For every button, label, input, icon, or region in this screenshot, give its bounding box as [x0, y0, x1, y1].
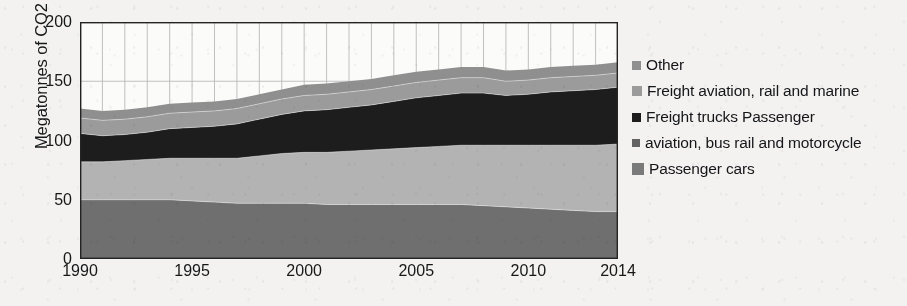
legend-swatch-icon	[632, 61, 641, 70]
x-tick-1990: 1990	[45, 262, 115, 280]
x-tick-2014: 2014	[583, 262, 653, 280]
legend-item[interactable]: Passenger cars	[632, 156, 904, 182]
legend-item[interactable]: Freight trucks Passenger	[632, 104, 904, 130]
legend-swatch-icon	[632, 163, 644, 175]
legend-item[interactable]: Other	[632, 52, 904, 78]
legend-label: Freight aviation, rail and marine	[647, 82, 859, 100]
x-tick-1995: 1995	[157, 262, 227, 280]
legend-label: Freight trucks Passenger	[646, 108, 815, 126]
legend-swatch-icon	[632, 113, 641, 122]
x-tick-2000: 2000	[269, 262, 339, 280]
chart-legend: OtherFreight aviation, rail and marineFr…	[632, 52, 904, 182]
chart-root: Megatonnes of CO2 equivilent 05010015020…	[0, 0, 907, 306]
stacked-area-plot	[80, 22, 618, 259]
legend-item[interactable]: aviation, bus rail and motorcycle	[632, 130, 904, 156]
legend-item[interactable]: Freight aviation, rail and marine	[632, 78, 904, 104]
x-tick-2010: 2010	[493, 262, 563, 280]
legend-label: Other	[646, 56, 684, 74]
legend-label: Passenger cars	[649, 160, 755, 178]
legend-label: aviation, bus rail and motorcycle	[645, 134, 861, 152]
x-tick-2005: 2005	[381, 262, 451, 280]
legend-swatch-icon	[632, 139, 640, 147]
legend-swatch-icon	[632, 86, 642, 96]
